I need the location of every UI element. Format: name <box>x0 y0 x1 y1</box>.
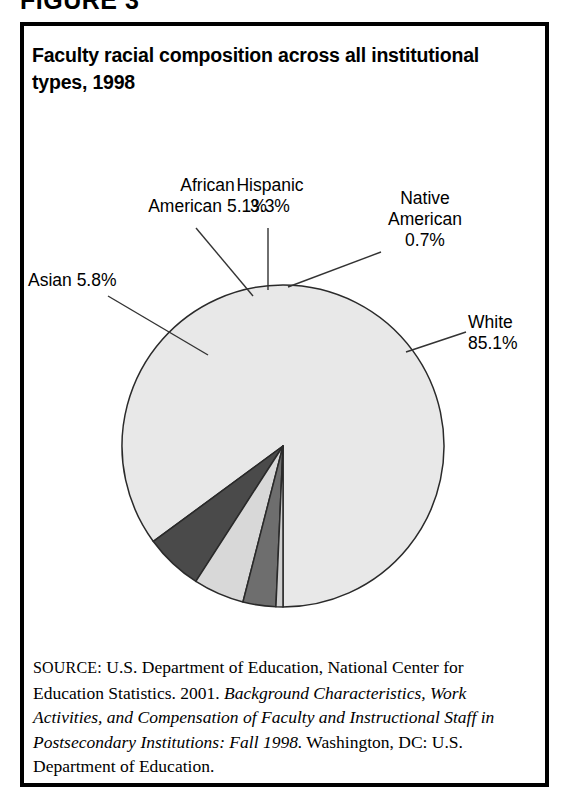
chart-title: Faculty racial composition across all in… <box>32 42 502 96</box>
source-prefix: SOURCE: <box>33 659 102 676</box>
pie-label-asian: Asian 5.8% <box>28 270 158 291</box>
source-note: SOURCE: U.S. Department of Education, Na… <box>33 655 503 779</box>
pie-label-native-american: Native American 0.7% <box>360 188 490 251</box>
figure-number-label: FIGURE 3 <box>20 0 139 15</box>
pie-label-hispanic: Hispanic 3.3% <box>210 175 330 217</box>
pie-label-white: White 85.1% <box>468 312 558 354</box>
